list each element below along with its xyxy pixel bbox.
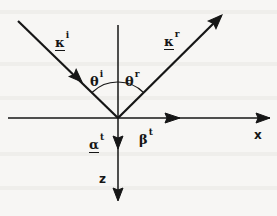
label-theta-reflected-superscript: r [135, 69, 140, 79]
label-theta-incident-base: θ [90, 74, 99, 89]
label-axis-z-base: z [99, 172, 106, 186]
x-axis-mid-arrowhead [165, 113, 180, 123]
label-k-incident-superscript: i [66, 30, 69, 40]
label-axis-z: z [99, 170, 106, 186]
label-k-incident: κi [55, 34, 68, 50]
z-axis-upper-arrowhead [113, 136, 123, 149]
label-theta-incident: θi [90, 73, 102, 89]
reflected-ray-line [118, 16, 221, 118]
wave-vector-diagram: κi κr θi θr αt βt x z [0, 0, 277, 216]
label-k-incident-base: κ [55, 35, 65, 51]
label-alpha-transmitted-superscript: t [100, 132, 104, 142]
label-k-reflected-superscript: r [175, 29, 180, 39]
label-theta-incident-superscript: i [100, 69, 103, 79]
label-k-reflected-base: κ [164, 34, 174, 50]
label-axis-x: x [254, 126, 262, 142]
label-theta-reflected: θr [125, 73, 138, 89]
label-alpha-transmitted: αt [89, 136, 103, 152]
label-beta-transmitted-superscript: t [149, 127, 153, 137]
x-axis-end-arrowhead [256, 113, 270, 123]
diagram-canvas [0, 0, 277, 216]
label-axis-x-base: x [254, 128, 262, 142]
label-k-reflected: κr [164, 33, 179, 49]
label-beta-transmitted: βt [139, 131, 152, 147]
label-theta-reflected-base: θ [125, 74, 134, 89]
label-alpha-transmitted-base: α [89, 137, 99, 153]
label-beta-transmitted-base: β [139, 132, 148, 147]
z-axis-end-arrowhead [113, 188, 123, 201]
